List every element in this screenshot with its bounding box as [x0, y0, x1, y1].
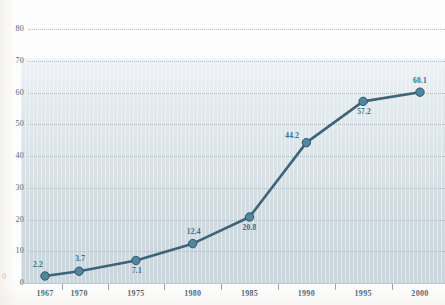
data-point-value-label: 20.8: [243, 224, 257, 232]
data-point-marker[interactable]: [359, 97, 367, 105]
data-point-value-label: 57.2: [357, 108, 371, 116]
data-point-marker[interactable]: [302, 138, 310, 146]
data-point-value-label: 44.2: [285, 132, 299, 140]
series-line: [45, 92, 420, 276]
chart-container: 01020304050607080 1967197019751980198519…: [0, 0, 445, 305]
data-point-marker[interactable]: [245, 213, 253, 221]
series-markers: [41, 88, 424, 280]
data-point-value-label: 7.1: [132, 267, 142, 275]
data-point-value-label: 3.7: [75, 255, 85, 263]
data-point-marker[interactable]: [75, 267, 83, 275]
data-point-marker[interactable]: [132, 256, 140, 264]
data-point-value-label: 12.4: [187, 228, 201, 236]
data-series-svg: [0, 0, 445, 305]
data-point-marker[interactable]: [41, 272, 49, 280]
data-point-value-label: 60.1: [413, 77, 427, 85]
data-point-marker[interactable]: [189, 239, 197, 247]
data-point-value-label: 2.2: [33, 261, 43, 269]
data-point-marker[interactable]: [416, 88, 424, 96]
